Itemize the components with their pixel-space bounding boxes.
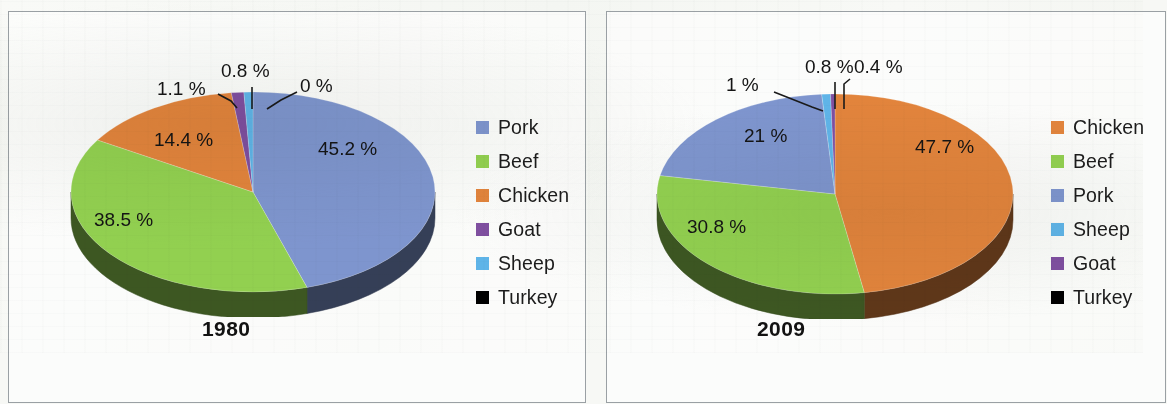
legend-swatch-turkey-icon bbox=[476, 291, 489, 304]
legend-swatch-chicken-icon bbox=[1051, 121, 1064, 134]
slice-label-porkpie-2009: 21 % bbox=[744, 125, 787, 147]
legend-row-turkey[interactable]: Turkey bbox=[476, 280, 569, 314]
legend-label: Sheep bbox=[498, 252, 555, 275]
slice-label-chicken-2009: 47.7 % bbox=[915, 136, 974, 158]
legend-row-pork[interactable]: Pork bbox=[476, 110, 569, 144]
legend-swatch-chicken-icon bbox=[476, 189, 489, 202]
legend-swatch-pork-icon bbox=[1051, 189, 1064, 202]
legend-row-sheep[interactable]: Sheep bbox=[476, 246, 569, 280]
legend-row-sheep[interactable]: Sheep bbox=[1051, 212, 1144, 246]
slice-label-sheep-1980: 0.8 % bbox=[221, 60, 270, 82]
legend-label: Sheep bbox=[1073, 218, 1130, 241]
chart-title-1980: 1980 bbox=[202, 317, 250, 341]
legend-swatch-pork-icon bbox=[476, 121, 489, 134]
slice-label-turkey-1980: 0 % bbox=[300, 75, 333, 97]
chart-panel-2009: 1 % 0.8 % 0.4 % 47.7 % 30.8 % 21 % Chick… bbox=[606, 11, 1166, 403]
legend-row-beef[interactable]: Beef bbox=[476, 144, 569, 178]
slice-label-beef-2009: 30.8 % bbox=[687, 216, 746, 238]
legend-label: Goat bbox=[498, 218, 541, 241]
slice-label-goat-1980: 1.1 % bbox=[157, 78, 206, 100]
legend-label: Chicken bbox=[498, 184, 569, 207]
legend-swatch-beef-icon bbox=[476, 155, 489, 168]
slice-label-chicken-1980: 14.4 % bbox=[154, 129, 213, 151]
slice-label-goat-2009: 0.4 % bbox=[854, 56, 903, 78]
legend-label: Beef bbox=[1073, 150, 1114, 173]
legend-swatch-sheep-icon bbox=[476, 257, 489, 270]
slice-label-pork-1980: 45.2 % bbox=[318, 138, 377, 160]
legend-label: Turkey bbox=[498, 286, 557, 309]
legend-label: Chicken bbox=[1073, 116, 1144, 139]
slice-label-sheep-2009: 0.8 % bbox=[805, 56, 854, 78]
legend-swatch-goat-icon bbox=[476, 223, 489, 236]
legend-label: Turkey bbox=[1073, 286, 1132, 309]
legend-label: Beef bbox=[498, 150, 539, 173]
legend-row-chicken[interactable]: Chicken bbox=[476, 178, 569, 212]
legend-label: Pork bbox=[1073, 184, 1114, 207]
legend-swatch-turkey-icon bbox=[1051, 291, 1064, 304]
chart-panel-1980: 1.1 % 0.8 % 0 % 45.2 % 38.5 % 14.4 % Por… bbox=[8, 11, 586, 403]
legend-row-beef[interactable]: Beef bbox=[1051, 144, 1144, 178]
legend-2009: ChickenBeefPorkSheepGoatTurkey bbox=[1051, 110, 1144, 314]
legend-row-turkey[interactable]: Turkey bbox=[1051, 280, 1144, 314]
legend-label: Pork bbox=[498, 116, 539, 139]
legend-swatch-sheep-icon bbox=[1051, 223, 1064, 236]
legend-1980: PorkBeefChickenGoatSheepTurkey bbox=[476, 110, 569, 314]
chart-area-2009: 1 % 0.8 % 0.4 % 47.7 % 30.8 % 21 % Chick… bbox=[607, 12, 1165, 402]
legend-row-goat[interactable]: Goat bbox=[476, 212, 569, 246]
legend-label: Goat bbox=[1073, 252, 1116, 275]
slice-label-pork-pct-2009: 1 % bbox=[726, 74, 759, 96]
legend-swatch-beef-icon bbox=[1051, 155, 1064, 168]
legend-row-pork[interactable]: Pork bbox=[1051, 178, 1144, 212]
chart-title-2009: 2009 bbox=[757, 317, 805, 341]
legend-row-chicken[interactable]: Chicken bbox=[1051, 110, 1144, 144]
chart-area-1980: 1.1 % 0.8 % 0 % 45.2 % 38.5 % 14.4 % Por… bbox=[9, 12, 585, 402]
legend-row-goat[interactable]: Goat bbox=[1051, 246, 1144, 280]
legend-swatch-goat-icon bbox=[1051, 257, 1064, 270]
slice-label-beef-1980: 38.5 % bbox=[94, 209, 153, 231]
